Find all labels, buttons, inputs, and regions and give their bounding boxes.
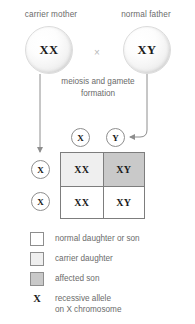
paternal-gamete-x-label: X bbox=[77, 133, 84, 143]
mother-label: carrier mother bbox=[4, 10, 98, 19]
legend-row-carrier: carrier daughter bbox=[30, 252, 190, 266]
mother-genotype-text: XX bbox=[40, 43, 59, 58]
maternal-gamete-x-1-label: X bbox=[37, 165, 44, 175]
legend-row-normal: normal daughter or son bbox=[30, 232, 190, 246]
meiosis-caption: meiosis and gamete formation bbox=[48, 76, 148, 99]
punnett-cell-carrier-daughter: XX bbox=[61, 153, 103, 186]
legend-row-affected: affected son bbox=[30, 272, 190, 286]
inheritance-diagram: carrier mother normal father XX XY × mei… bbox=[0, 0, 195, 324]
punnett-cell-normal-daughter: XX bbox=[61, 186, 103, 219]
paternal-gamete-x: X bbox=[71, 128, 90, 147]
father-genotype-text: XY bbox=[138, 43, 157, 58]
legend: normal daughter or son carrier daughter … bbox=[30, 232, 190, 321]
paternal-gamete-y-label: Y bbox=[112, 133, 119, 143]
maternal-gamete-x-2: X bbox=[31, 192, 50, 211]
legend-swatch-normal bbox=[30, 232, 44, 246]
legend-label-affected: affected son bbox=[55, 272, 99, 284]
legend-label-normal: normal daughter or son bbox=[55, 232, 140, 244]
legend-row-allele: X recessive allele on X chromosome bbox=[30, 292, 190, 315]
punnett-cell-normal-son: XY bbox=[103, 186, 145, 219]
cross-symbol: × bbox=[86, 47, 108, 58]
punnett-cell-affected-son: XY bbox=[103, 153, 145, 186]
legend-allele-glyph: X bbox=[30, 292, 44, 306]
mother-genotype-sphere: XX bbox=[25, 26, 73, 74]
maternal-gamete-x-2-label: X bbox=[37, 197, 44, 207]
paternal-gamete-y: Y bbox=[106, 128, 125, 147]
legend-swatch-affected bbox=[30, 272, 44, 286]
father-label: normal father bbox=[100, 10, 192, 19]
father-genotype-sphere: XY bbox=[123, 26, 171, 74]
maternal-gamete-x-1: X bbox=[31, 160, 50, 179]
legend-label-carrier: carrier daughter bbox=[55, 252, 113, 264]
legend-allele-label: recessive allele on X chromosome bbox=[55, 292, 121, 315]
legend-swatch-carrier bbox=[30, 252, 44, 266]
punnett-square: XX XY XX XY bbox=[60, 152, 145, 219]
